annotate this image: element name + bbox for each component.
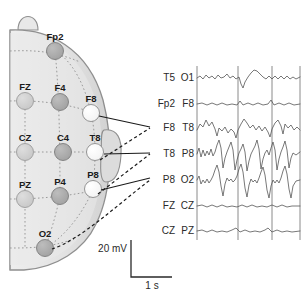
figure-canvas: Fp2 FZ F4 F8 CZ C4 T8 PZ P4 P8 bbox=[0, 0, 305, 293]
nose-bump-icon bbox=[18, 17, 38, 31]
electrode-label-pz: PZ bbox=[19, 179, 31, 190]
electrode-pz[interactable] bbox=[17, 191, 34, 208]
electrode-label-fz: FZ bbox=[19, 81, 31, 92]
channel-label-left-6: CZ bbox=[162, 225, 175, 236]
electrode-label-p4: P4 bbox=[54, 176, 66, 187]
trace-fp2-f8 bbox=[197, 100, 300, 105]
electrode-cz[interactable] bbox=[17, 144, 34, 161]
electrode-c4[interactable] bbox=[55, 144, 72, 161]
trace-t5-o1 bbox=[197, 70, 300, 88]
channel-label-right-5: CZ bbox=[181, 200, 194, 211]
scale-bar: 20 mV 1 s bbox=[98, 240, 172, 291]
electrode-label-fp2: Fp2 bbox=[47, 31, 64, 42]
channel-label-right-3: P8 bbox=[182, 148, 195, 159]
electrode-t8[interactable] bbox=[87, 144, 104, 161]
electrode-label-f8: F8 bbox=[85, 93, 96, 104]
electrode-fz[interactable] bbox=[17, 93, 34, 110]
channel-label-right-6: PZ bbox=[181, 225, 194, 236]
channel-label-left-4: P8 bbox=[163, 174, 176, 185]
trace-p8-o2 bbox=[197, 164, 300, 198]
electrode-label-t8: T8 bbox=[89, 132, 100, 143]
scale-bar-lines bbox=[131, 240, 172, 277]
channel-label-left-1: Fp2 bbox=[158, 98, 176, 109]
electrode-label-f4: F4 bbox=[54, 82, 66, 93]
trace-fz-cz bbox=[197, 205, 300, 207]
electrode-fp2[interactable] bbox=[47, 43, 64, 60]
eeg-figure: Fp2 FZ F4 F8 CZ C4 T8 PZ P4 P8 bbox=[0, 0, 305, 293]
electrode-p8[interactable] bbox=[85, 181, 102, 198]
scale-bar-time-label: 1 s bbox=[145, 280, 158, 291]
electrode-label-c4: C4 bbox=[57, 132, 70, 143]
traces-panel: T5 O1 Fp2 F8 F8 T8 T8 P8 P8 O2 FZ CZ CZ … bbox=[158, 66, 300, 240]
electrode-label-cz: CZ bbox=[19, 132, 32, 143]
electrode-p4[interactable] bbox=[52, 188, 69, 205]
electrode-f8[interactable] bbox=[83, 105, 100, 122]
ear-outline-icon bbox=[101, 130, 121, 182]
trace-cz-pz bbox=[197, 228, 300, 232]
trace-waveforms bbox=[197, 70, 300, 232]
head-diagram: Fp2 FZ F4 F8 CZ C4 T8 PZ P4 P8 bbox=[10, 17, 150, 271]
channel-label-left-2: F8 bbox=[163, 122, 175, 133]
electrode-label-o2: O2 bbox=[39, 228, 52, 239]
channel-labels: T5 O1 Fp2 F8 F8 T8 T8 P8 P8 O2 FZ CZ CZ … bbox=[158, 72, 195, 236]
channel-label-right-4: O2 bbox=[181, 174, 195, 185]
channel-label-right-1: F8 bbox=[182, 98, 194, 109]
channel-label-left-5: FZ bbox=[163, 200, 175, 211]
electrode-f4[interactable] bbox=[52, 94, 69, 111]
channel-label-left-0: T5 bbox=[163, 72, 175, 83]
trace-f8-t8 bbox=[197, 119, 300, 138]
electrode-label-p8: P8 bbox=[87, 169, 99, 180]
electrode-o2[interactable] bbox=[37, 240, 54, 257]
channel-label-right-2: T8 bbox=[182, 122, 194, 133]
scale-bar-voltage-label: 20 mV bbox=[98, 243, 127, 254]
channel-label-left-3: T8 bbox=[163, 148, 175, 159]
channel-label-right-0: O1 bbox=[181, 72, 195, 83]
